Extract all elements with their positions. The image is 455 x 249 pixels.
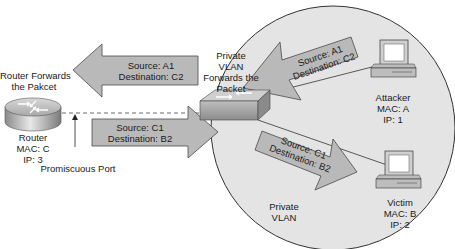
attacker-labels: Attacker MAC: A IP: 1	[365, 92, 421, 125]
switch-caption: Private VLAN Forwards the Packet	[200, 50, 262, 94]
arrow-router-to-switch-text: Source: C1 Destination: B2	[92, 122, 188, 144]
switch-icon	[200, 90, 270, 120]
victim-labels: Victim MAC: B IP: 2	[372, 197, 428, 230]
promiscuous-port-pointer-icon	[72, 114, 78, 147]
arrow-switch-to-router-text: Source: A1 Destination: C2	[106, 60, 196, 82]
promiscuous-port-label: Promiscuous Port	[38, 163, 118, 174]
private-vlan-label: Private VLAN	[262, 201, 306, 223]
router-caption: Router Forwards the Pakcet	[0, 70, 68, 92]
router-labels: Router MAC: C IP: 3	[5, 132, 61, 165]
router-icon	[5, 98, 61, 131]
